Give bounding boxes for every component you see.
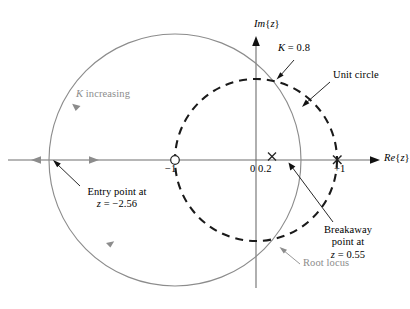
tick-label-minus-one: −1 [165, 163, 176, 175]
annotation-breakaway-line1: Breakaway [324, 224, 372, 235]
annotation-unit-circle: Unit circle [333, 69, 379, 81]
tick-label-plus-one: +1 [334, 163, 345, 175]
leader-unit-circle [302, 82, 330, 107]
imag-axis-label: Im{z} [254, 18, 280, 30]
real-axis [8, 156, 380, 164]
annotation-entry-point-line1: Entry point at [87, 186, 146, 197]
tick-label-origin: 0 0.2 [250, 163, 272, 175]
locus-direction-arrow-right [89, 156, 99, 163]
imag-axis-arrowhead [252, 36, 260, 46]
locus-direction-arrow-left [31, 156, 41, 163]
annotation-k-value: K = 0.8 [278, 42, 310, 54]
pole-marker-0p2 [268, 153, 276, 161]
real-axis-label: Re{z} [384, 152, 410, 164]
leader-breakaway-point [289, 163, 334, 223]
leader-entry-point [53, 160, 80, 186]
annotation-breakaway-line2: point at [332, 236, 365, 247]
imaginary-axis [252, 36, 260, 288]
leader-root-locus [280, 247, 301, 264]
locus-arrow-lower-left [106, 241, 114, 247]
annotation-k-increasing: K increasing [76, 88, 130, 100]
leader-k-value [277, 60, 295, 80]
annotation-entry-point: Entry point at z = −2.56 [62, 186, 172, 211]
real-axis-arrowhead [370, 156, 380, 164]
annotation-breakaway-point: Breakaway point at z = 0.55 [300, 224, 396, 261]
locus-arrow-upper-left [72, 102, 81, 111]
